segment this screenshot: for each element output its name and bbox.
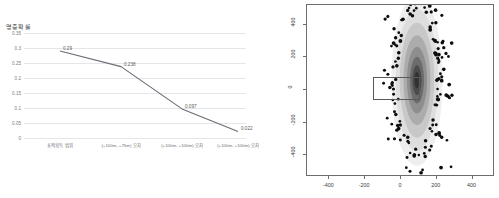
scatter-point: [437, 58, 440, 61]
scatter-point: [439, 72, 442, 75]
scatter-point: [437, 61, 440, 64]
scatter-point: [415, 7, 418, 10]
line-chart-point-label: 0.022: [241, 126, 253, 131]
scatter-point: [408, 7, 411, 10]
scatter-x-tick-mark: [328, 176, 329, 179]
scatter-x-tick-mark: [364, 176, 365, 179]
scatter-x-tick-label: 400: [467, 182, 476, 188]
line-chart-point-label: 0.29: [63, 46, 72, 51]
scatter-point: [434, 21, 437, 24]
scatter-y-tick-text: 0: [287, 86, 293, 89]
line-chart-series: [24, 33, 246, 138]
scatter-point: [406, 135, 409, 138]
line-chart-point-label: 0.097: [185, 103, 197, 108]
scatter-point: [450, 165, 453, 168]
line-chart-y-tick-label: 0.15: [12, 91, 21, 96]
scatter-point: [424, 155, 427, 158]
scatter-y-tick-text: -200: [290, 114, 296, 125]
scatter-point: [400, 34, 403, 37]
scatter-point: [387, 138, 390, 141]
line-chart-plot-area: 00.050.10.150.20.250.30.35 0.290.2380.09…: [24, 33, 246, 138]
figure-canvas: 명중확률 00.050.10.150.20.250.30.35 0.290.23…: [0, 0, 499, 198]
scatter-point: [394, 36, 397, 39]
scatter-point: [434, 133, 438, 137]
scatter-point: [393, 110, 396, 113]
scatter-y-tick-label: 200: [288, 51, 297, 57]
scatter-x-tick-label: -200: [359, 182, 370, 188]
line-chart-panel: 명중확률 00.050.10.150.20.250.30.35 0.290.23…: [0, 0, 252, 198]
scatter-chart-plot-area: [306, 4, 494, 176]
scatter-point: [444, 93, 448, 97]
scatter-point: [398, 120, 401, 123]
scatter-point: [395, 64, 399, 68]
line-chart-gridline: 0: [24, 138, 246, 139]
scatter-y-tick-text: 200: [290, 50, 296, 59]
scatter-point: [431, 118, 434, 121]
scatter-y-tick-label: -200: [288, 117, 299, 123]
scatter-point: [447, 83, 451, 87]
scatter-point: [403, 134, 406, 137]
scatter-point: [394, 102, 397, 105]
scatter-point: [401, 18, 405, 22]
scatter-chart-panel: 4002000-200-400 -400-2000200400: [252, 0, 499, 198]
scatter-point: [434, 8, 438, 12]
scatter-point: [436, 97, 440, 101]
scatter-y-tick-label: -400: [288, 149, 299, 155]
scatter-point: [408, 12, 412, 16]
scatter-point: [442, 46, 445, 49]
line-chart-series-path: [60, 51, 238, 131]
scatter-point: [440, 14, 443, 17]
scatter-point: [437, 47, 440, 50]
scatter-x-tick-label: 0: [399, 182, 402, 188]
scatter-point: [413, 9, 416, 12]
line-chart-y-tick-label: 0.35: [12, 31, 21, 36]
line-chart-y-tick-label: 0.1: [15, 106, 21, 111]
scatter-point: [446, 139, 449, 142]
scatter-point: [399, 138, 402, 141]
scatter-point: [396, 124, 399, 127]
scatter-point: [435, 103, 438, 106]
scatter-point: [440, 79, 444, 83]
scatter-point: [441, 56, 444, 59]
line-chart-y-tick-label: 0.25: [12, 61, 21, 66]
scatter-x-tick-mark: [400, 176, 401, 179]
scatter-point: [394, 60, 397, 63]
scatter-point: [429, 127, 432, 130]
scatter-point: [440, 136, 443, 139]
scatter-point: [419, 171, 423, 175]
scatter-point: [405, 166, 408, 169]
scatter-point: [390, 123, 393, 126]
scatter-point: [433, 51, 436, 54]
scatter-point: [421, 168, 424, 171]
line-chart-x-tick-label: 표적획득 범위: [47, 142, 72, 148]
scatter-point: [440, 75, 443, 78]
scatter-point: [425, 11, 428, 14]
scatter-point: [407, 141, 410, 144]
scatter-point: [428, 28, 432, 32]
scatter-point: [406, 9, 409, 12]
scatter-point: [413, 153, 416, 156]
line-chart-y-tick-label: 0: [18, 136, 21, 141]
line-chart-x-tick-label: (+100m, +100m) 오차: [161, 142, 203, 148]
scatter-point: [448, 96, 451, 99]
scatter-point: [406, 156, 409, 159]
scatter-point: [435, 79, 439, 83]
scatter-point: [390, 45, 393, 48]
scatter-point: [437, 53, 441, 57]
scatter-point: [423, 6, 426, 9]
scatter-y-tick-label: 400: [288, 19, 297, 25]
scatter-point: [436, 88, 439, 91]
scatter-point: [450, 41, 454, 45]
scatter-point: [409, 152, 412, 155]
scatter-y-tick-text: -400: [290, 147, 296, 158]
scatter-y-tick-text: 400: [290, 17, 296, 26]
scatter-point: [442, 68, 446, 72]
scatter-point: [395, 128, 398, 131]
scatter-point: [397, 51, 401, 55]
scatter-point: [430, 145, 433, 148]
scatter-point: [395, 44, 398, 47]
scatter-point: [436, 95, 439, 98]
scatter-point: [431, 124, 434, 127]
scatter-point: [397, 31, 400, 34]
scatter-point: [391, 65, 394, 68]
